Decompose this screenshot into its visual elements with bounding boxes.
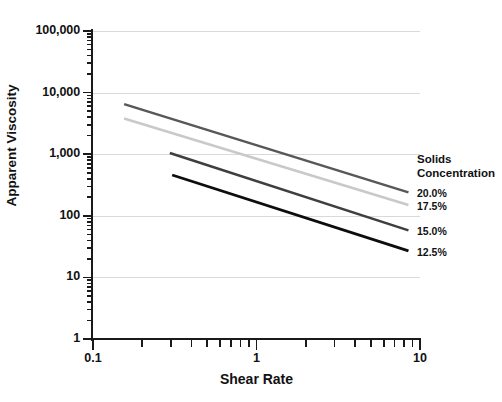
series-line xyxy=(124,118,408,204)
x-axis-title: Shear Rate xyxy=(93,371,420,387)
legend-title-line-1: Solids xyxy=(417,152,502,166)
series-line xyxy=(124,104,408,192)
chart-container: 100,00010,0001,000100101 0.1110 Apparent… xyxy=(0,0,502,402)
legend-title-line-2: Concentration xyxy=(417,166,502,180)
y-axis-title: Apparent Viscosity xyxy=(4,71,19,221)
legend: Solids Concentration 20.0%17.5%15.0%12.5… xyxy=(417,152,502,180)
series-line xyxy=(172,175,408,251)
legend-item-175[interactable]: 17.5% xyxy=(417,200,447,212)
legend-item-200[interactable]: 20.0% xyxy=(417,187,447,199)
legend-item-125[interactable]: 12.5% xyxy=(417,246,447,258)
legend-item-150[interactable]: 15.0% xyxy=(417,225,447,237)
series-line xyxy=(170,153,409,230)
